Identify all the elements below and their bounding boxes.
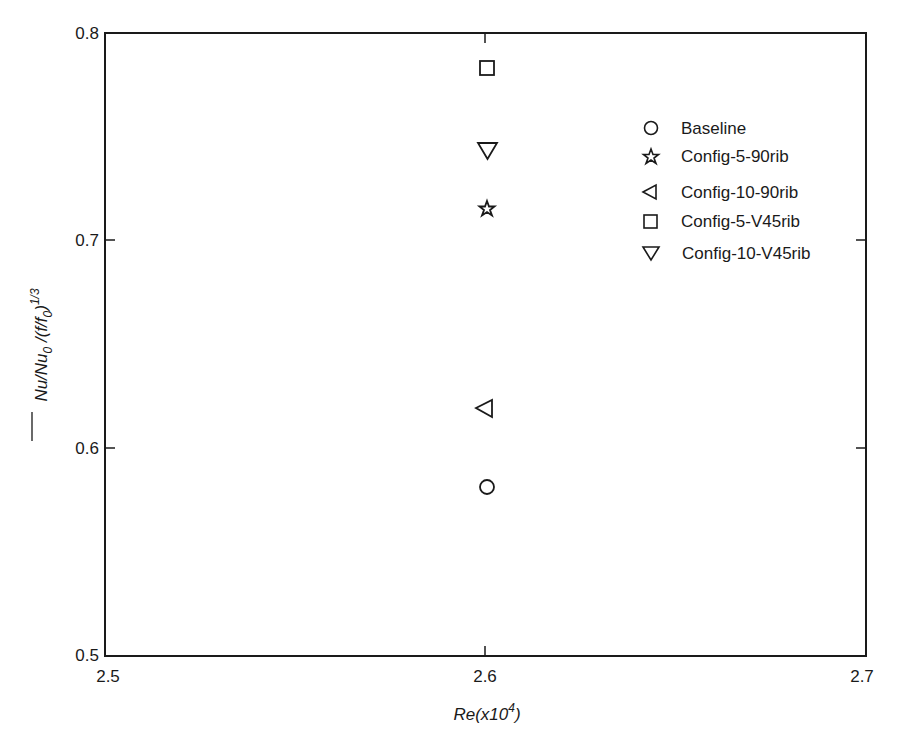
svg-text:Nu/Nu0 /(f/f0)1/3: Nu/Nu0 /(f/f0)1/3: [28, 288, 55, 402]
plot-frame: [105, 33, 866, 656]
legend-item: Baseline: [645, 119, 747, 138]
marker-triangle-down: [478, 143, 497, 159]
legend-label: Config-10-90rib: [681, 183, 798, 202]
y-axis-tick-labels: 0.8 0.7 0.6 0.5: [75, 24, 99, 665]
legend-item: Config-5-90rib: [644, 147, 789, 166]
legend-label: Config-5-V45rib: [681, 212, 800, 231]
marker-triangle-left: [476, 400, 492, 417]
y-tick-label: 0.8: [75, 24, 99, 43]
legend-label: Config-5-90rib: [681, 147, 789, 166]
y-tick-label: 0.5: [75, 646, 99, 665]
legend-circle-icon: [645, 122, 658, 135]
x-tick-label: 2.5: [96, 667, 120, 686]
legend-star-icon: [644, 149, 659, 164]
legend: Baseline Config-5-90rib Config-10-90rib …: [643, 119, 811, 263]
legend-item: Config-10-V45rib: [643, 244, 811, 263]
marker-star: [480, 201, 495, 216]
x-tick-label: 2.7: [850, 667, 874, 686]
legend-triangle-left-icon: [643, 185, 656, 199]
y-axis-ticks: [105, 240, 866, 448]
y-axis-title: Nu/Nu0 /(f/f0)1/3: [28, 288, 55, 441]
legend-item: Config-10-90rib: [643, 183, 798, 202]
legend-label: Config-10-V45rib: [682, 244, 811, 263]
marker-circle: [480, 480, 494, 494]
data-points: [476, 61, 497, 494]
y-tick-label: 0.6: [75, 439, 99, 458]
y-tick-label: 0.7: [75, 231, 99, 250]
x-axis-tick-labels: 2.5 2.6 2.7: [96, 667, 874, 686]
scatter-chart: 0.8 0.7 0.6 0.5 2.5 2.6 2.7 Re(x104) Nu/…: [0, 0, 906, 749]
legend-label: Baseline: [681, 119, 746, 138]
legend-square-icon: [644, 215, 657, 228]
marker-square: [480, 61, 494, 75]
legend-item: Config-5-V45rib: [644, 212, 800, 231]
x-tick-label: 2.6: [473, 667, 497, 686]
legend-triangle-down-icon: [643, 247, 659, 260]
x-axis-title: Re(x104): [453, 701, 520, 724]
